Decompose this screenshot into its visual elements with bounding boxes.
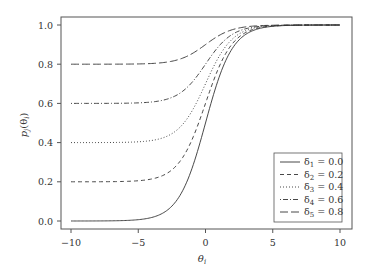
y-tick-label: 0.4 <box>38 137 53 148</box>
x-axis-label: θi <box>198 253 206 266</box>
x-tick-label: −10 <box>61 237 81 248</box>
y-axis: 0.00.20.40.60.81.0 <box>38 20 61 227</box>
y-tick-label: 0.6 <box>38 98 53 109</box>
series-line-5 <box>71 25 340 64</box>
series-line-3 <box>71 25 340 143</box>
y-tick-label: 1.0 <box>38 20 53 31</box>
legend: δ1 = 0.0δ2 = 0.2δ3 = 0.4δ4 = 0.6δ5 = 0.8 <box>274 153 343 222</box>
x-axis: −10−50510 <box>61 229 346 248</box>
x-tick-label: 10 <box>334 237 346 248</box>
y-axis-label: pj(θi) <box>18 113 31 138</box>
x-tick-label: −5 <box>131 237 145 248</box>
y-tick-label: 0.0 <box>38 216 53 227</box>
x-tick-label: 0 <box>202 237 208 248</box>
y-tick-label: 0.8 <box>38 59 53 70</box>
x-tick-label: 5 <box>270 237 276 248</box>
chart: 0.00.20.40.60.81.0 −10−50510 pj(θi) θi δ… <box>0 0 368 280</box>
y-tick-label: 0.2 <box>38 176 53 187</box>
